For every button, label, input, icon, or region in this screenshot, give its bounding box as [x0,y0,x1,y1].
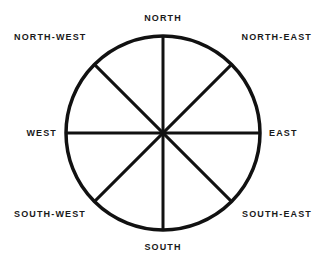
compass-rose-figure: NORTH NORTH-EAST EAST SOUTH-EAST SOUTH S… [0,0,326,266]
direction-label-east: EAST [269,129,298,138]
direction-label-north: NORTH [144,14,182,23]
direction-label-south-west: SOUTH-WEST [14,210,86,219]
direction-label-south-east: SOUTH-EAST [242,210,312,219]
direction-label-north-east: NORTH-EAST [242,33,313,42]
direction-label-north-west: NORTH-WEST [14,33,87,42]
direction-label-west: WEST [26,129,57,138]
direction-label-south: SOUTH [144,243,181,252]
